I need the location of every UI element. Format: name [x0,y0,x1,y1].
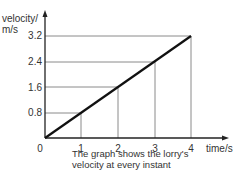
y-tick-2.4: 2.4 [18,56,42,67]
caption-line1: The graph shows the lorry's [72,148,188,159]
y-tick-3.2: 3.2 [18,30,42,41]
caption-line2: velocity at every instant [72,159,188,170]
y-tick-1.6: 1.6 [18,82,42,93]
origin-label: 0 [33,143,47,154]
x-axis-label: time/s [206,143,233,154]
y-tick-0.8: 0.8 [18,107,42,118]
y-axis-label-line2: m/s [2,24,18,35]
y-axis-arrow-icon [43,10,48,17]
y-axis-label-line1: velocity/ [2,13,38,24]
caption: The graph shows the lorry's velocity at … [72,148,188,170]
x-axis-arrow-icon [222,136,229,141]
